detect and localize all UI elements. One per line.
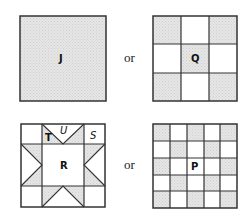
or-connector-bottom: or: [124, 157, 135, 173]
label-p: P: [191, 161, 198, 172]
block-j: J: [20, 16, 106, 101]
block-r: T U S R: [21, 124, 105, 207]
label-j: J: [58, 53, 63, 64]
quilt-diagram: J Q T: [0, 0, 250, 214]
block-q: Q: [153, 16, 237, 101]
label-u: U: [60, 125, 68, 136]
label-q: Q: [191, 53, 200, 64]
block-p: P: [153, 124, 237, 208]
label-s: S: [90, 130, 97, 141]
label-t: T: [45, 132, 52, 143]
or-connector-top: or: [124, 50, 135, 66]
label-r: R: [60, 160, 68, 171]
